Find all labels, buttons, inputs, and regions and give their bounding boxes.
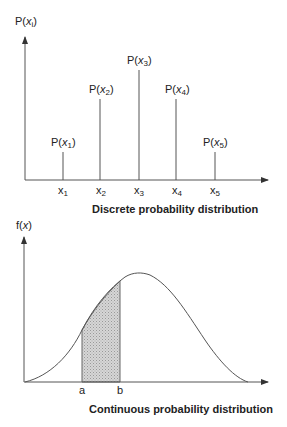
bar-label-p5: P(x5) [203,136,228,150]
bar-label-p4: P(x4) [165,83,190,97]
bound-b-label: b [117,384,123,396]
bound-a-label: a [79,384,86,396]
discrete-y-axis-label: P(xi) [15,15,37,29]
bar-label-p2: P(x2) [89,83,114,97]
continuous-caption: Continuous probability distribution [89,403,273,415]
diagram-canvas: P(xi) P(x1) P(x2) P(x3) P(x4) P(x5) x1 x… [0,0,287,427]
discrete-chart: P(xi) P(x1) P(x2) P(x3) P(x4) P(x5) x1 x… [15,15,268,215]
x-tick-2: x2 [96,184,107,198]
x-tick-1: x1 [58,184,69,198]
bar-label-p3: P(x3) [127,54,152,68]
continuous-chart: f(x) a b Continuous probability distribu… [16,219,273,415]
continuous-y-axis-label: f(x) [16,219,32,231]
x-tick-3: x3 [134,184,145,198]
bar-label-p1: P(x1) [51,136,76,150]
x-tick-4: x4 [172,184,183,198]
density-curve [25,273,248,382]
x-tick-5: x5 [210,184,221,198]
shaded-area [82,281,120,382]
discrete-caption: Discrete probability distribution [92,203,259,215]
